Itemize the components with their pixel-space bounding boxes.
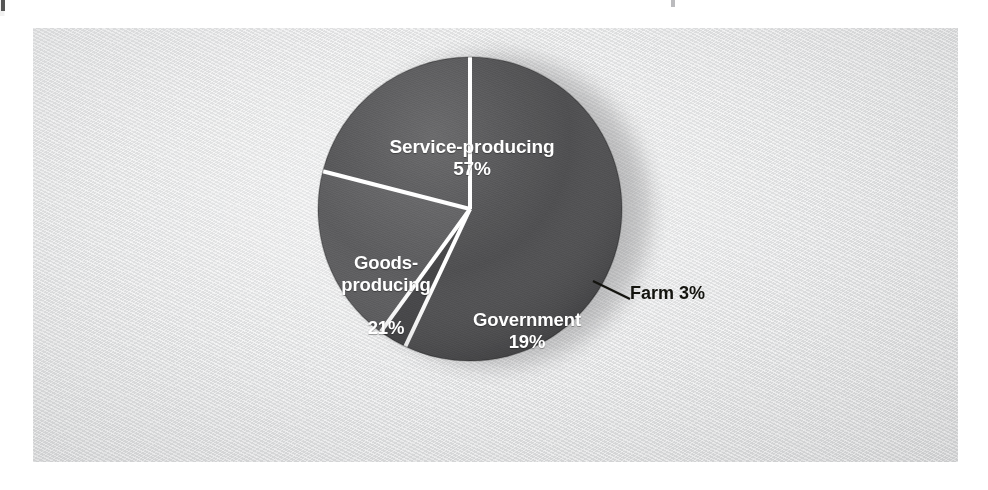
figure-canvas: Service-producing 57% Goods- producing 2…	[0, 0, 988, 490]
pie-svg	[285, 24, 655, 394]
scan-edge-artifact	[0, 0, 988, 16]
disc-shading	[318, 57, 622, 361]
scan-mark-right	[671, 0, 675, 7]
slice-label-farm: Farm 3%	[630, 283, 705, 304]
pie-chart	[285, 24, 655, 394]
scan-mark-left	[1, 0, 5, 11]
